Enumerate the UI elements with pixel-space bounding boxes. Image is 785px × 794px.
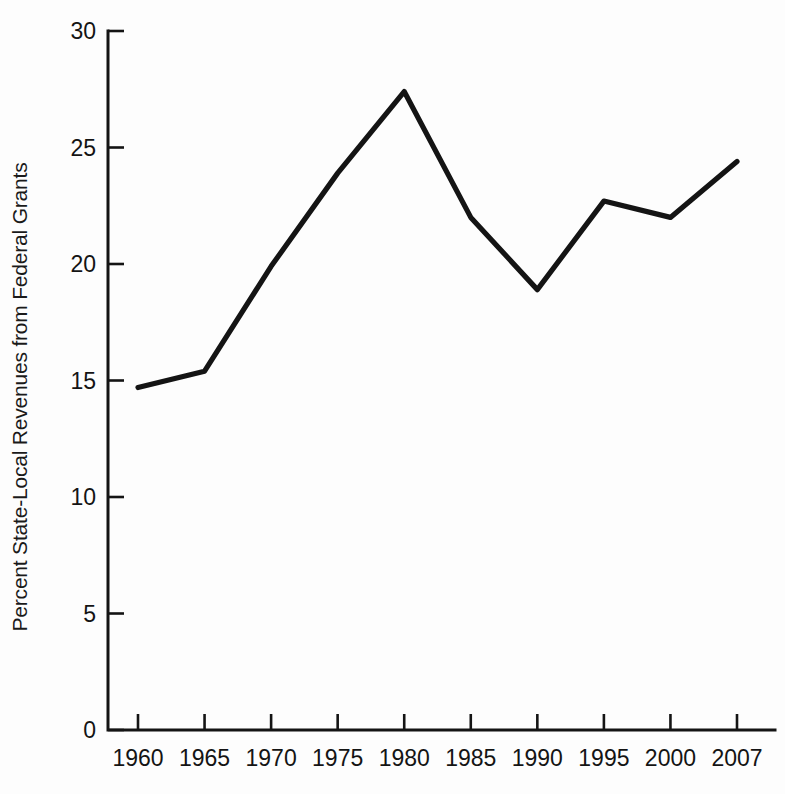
x-axis-ticks [138,714,737,730]
axis-lines [108,31,775,730]
y-tick-label: 20 [70,251,96,277]
x-tick-label: 2000 [645,745,696,771]
y-axis-ticks [108,31,124,730]
x-tick-label: 1985 [445,745,496,771]
chart-figure: Percent State-Local Revenues from Federa… [0,0,785,794]
y-tick-label: 10 [70,484,96,510]
x-axis-tick-labels: 1960196519701975198019851990199520002007 [112,745,762,771]
x-tick-label: 2007 [711,745,762,771]
x-tick-label: 1980 [379,745,430,771]
y-tick-label: 5 [83,601,96,627]
y-tick-label: 0 [83,717,96,743]
y-tick-label: 15 [70,368,96,394]
line-chart-plot: 051015202530 196019651970197519801985199… [0,0,785,794]
y-tick-label: 25 [70,135,96,161]
x-tick-label: 1960 [112,745,163,771]
x-tick-label: 1965 [179,745,230,771]
x-tick-label: 1995 [578,745,629,771]
y-tick-label: 30 [70,18,96,44]
y-axis-tick-labels: 051015202530 [70,18,96,743]
data-series-line [138,92,737,388]
x-tick-label: 1990 [512,745,563,771]
x-tick-label: 1970 [246,745,297,771]
x-tick-label: 1975 [312,745,363,771]
